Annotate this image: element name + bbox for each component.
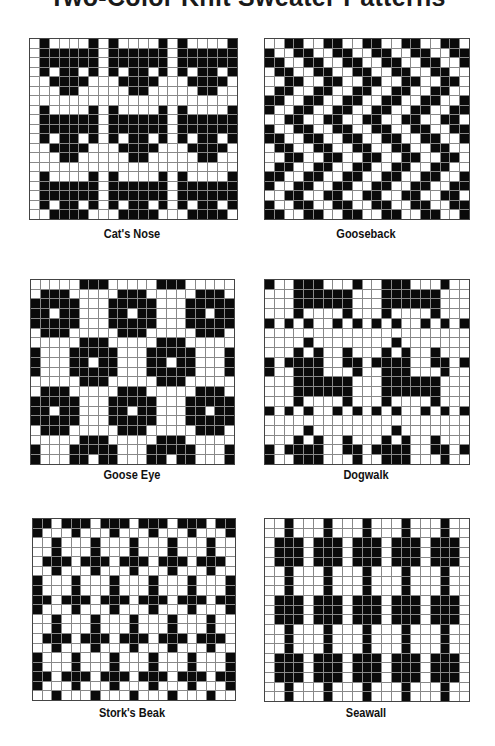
chart-stitch <box>198 58 207 67</box>
chart-stitch <box>421 692 430 701</box>
chart-stitch <box>206 280 215 289</box>
chart-stitch <box>128 416 137 425</box>
chart-stitch <box>392 606 401 615</box>
chart-stitch <box>402 615 411 624</box>
chart-stitch <box>188 682 197 691</box>
chart-stitch <box>363 125 372 134</box>
chart-stitch <box>411 606 420 615</box>
chart-stitch <box>402 407 411 416</box>
chart-stitch <box>139 87 148 96</box>
chart-stitch <box>363 538 372 547</box>
chart-stitch <box>81 567 90 576</box>
chart-stitch <box>363 548 372 557</box>
chart-stitch <box>411 538 420 547</box>
chart-stitch <box>294 548 303 557</box>
chart-stitch <box>149 134 158 143</box>
chart-stitch <box>72 672 81 681</box>
chart-stitch <box>81 653 90 662</box>
chart-stitch <box>411 558 420 567</box>
chart-stitch <box>460 299 469 308</box>
chart-stitch <box>285 163 294 172</box>
chart-stitch <box>198 210 207 219</box>
chart-stitch <box>188 182 197 191</box>
chart-stitch <box>197 605 206 614</box>
chart-stitch <box>402 625 411 634</box>
chart-stitch <box>411 387 420 396</box>
chart-stitch <box>218 87 227 96</box>
chart-stitch <box>421 558 430 567</box>
chart-stitch <box>304 455 313 464</box>
chart-stitch <box>138 358 147 367</box>
chart-stitch <box>50 125 59 134</box>
chart-stitch <box>294 445 303 454</box>
chart-stitch <box>450 96 459 105</box>
chart-stitch <box>372 368 381 377</box>
chart-stitch <box>208 172 217 181</box>
chart-stitch <box>109 87 118 96</box>
chart-stitch <box>294 191 303 200</box>
chart-stitch <box>178 68 187 77</box>
chart-stitch <box>372 635 381 644</box>
chart-stitch <box>392 387 401 396</box>
chart-stitch <box>304 644 313 653</box>
chart-stitch <box>431 182 440 191</box>
chart-stitch <box>421 455 430 464</box>
chart-stitch <box>208 191 217 200</box>
chart-stitch <box>70 134 79 143</box>
chart-stitch <box>80 397 89 406</box>
chart-stitch <box>198 96 207 105</box>
chart-stitch <box>70 290 79 299</box>
chart-stitch <box>402 445 411 454</box>
chart-stitch <box>99 348 108 357</box>
chart-stitch <box>460 635 469 644</box>
chart-stitch <box>89 77 98 86</box>
chart-stitch <box>265 68 274 77</box>
chart-stitch <box>382 77 391 86</box>
chart-stitch <box>333 87 342 96</box>
chart-stitch <box>129 153 138 162</box>
chart-stitch <box>353 348 362 357</box>
chart-stitch <box>450 348 459 357</box>
chart-stitch <box>363 77 372 86</box>
chart-stitch <box>89 280 98 289</box>
chart-stitch <box>30 96 39 105</box>
chart-stitch <box>343 348 352 357</box>
chart-stitch <box>30 191 39 200</box>
chart-stitch <box>99 96 108 105</box>
chart-stitch <box>50 115 59 124</box>
chart-stitch <box>188 596 197 605</box>
chart-stitch <box>178 77 187 86</box>
chart-stitch <box>450 586 459 595</box>
chart-stitch <box>460 163 469 172</box>
chart-stitch <box>294 436 303 445</box>
chart-stitch <box>265 673 274 682</box>
chart-stitch <box>33 682 42 691</box>
chart-stitch <box>441 338 450 347</box>
chart-stitch <box>99 407 108 416</box>
chart-stitch <box>216 653 225 662</box>
chart-stitch <box>372 436 381 445</box>
chart-stitch <box>50 172 59 181</box>
chart-stitch <box>392 49 401 58</box>
chart-stitch <box>431 519 440 528</box>
chart-stitch <box>353 387 362 396</box>
chart-stitch <box>52 653 61 662</box>
chart-stitch <box>130 682 139 691</box>
chart-stitch <box>324 606 333 615</box>
chart-stitch <box>89 210 98 219</box>
chart-stitch <box>460 519 469 528</box>
chart-stitch <box>70 115 79 124</box>
chart-stitch <box>450 548 459 557</box>
chart-stitch <box>450 692 459 701</box>
chart-stitch <box>138 280 147 289</box>
chart-stitch <box>363 416 372 425</box>
chart-stitch <box>52 672 61 681</box>
chart-stitch <box>294 144 303 153</box>
chart-stitch <box>91 634 100 643</box>
chart-stitch <box>265 348 274 357</box>
chart-stitch <box>363 280 372 289</box>
chart-stitch <box>450 445 459 454</box>
chart-stitch <box>411 153 420 162</box>
chart-stitch <box>52 605 61 614</box>
chart-stitch <box>343 290 352 299</box>
